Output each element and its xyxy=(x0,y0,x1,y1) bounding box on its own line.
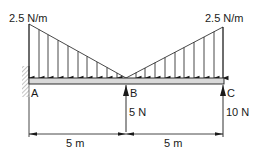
beam xyxy=(29,78,224,84)
fixed-support-wall xyxy=(22,66,29,97)
reaction-b-label: 5 N xyxy=(129,106,146,118)
left-distributed-load xyxy=(29,24,126,78)
dimension-ab-label: 5 m xyxy=(66,137,84,149)
dimension-ab xyxy=(29,132,126,135)
point-b-label: B xyxy=(130,87,137,99)
beam-diagram: 2.5 N/m 2.5 N/m A B C 5 N 10 N 5 m 5 m xyxy=(0,0,260,157)
right-load-label: 2.5 N/m xyxy=(205,12,244,24)
point-c-label: C xyxy=(227,87,235,99)
dimension-bc-label: 5 m xyxy=(164,137,182,149)
left-load-label: 2.5 N/m xyxy=(9,12,48,24)
reaction-c-label: 10 N xyxy=(226,106,249,118)
point-a-label: A xyxy=(31,87,39,99)
dimension-bc xyxy=(126,132,223,135)
right-distributed-load xyxy=(126,27,223,78)
